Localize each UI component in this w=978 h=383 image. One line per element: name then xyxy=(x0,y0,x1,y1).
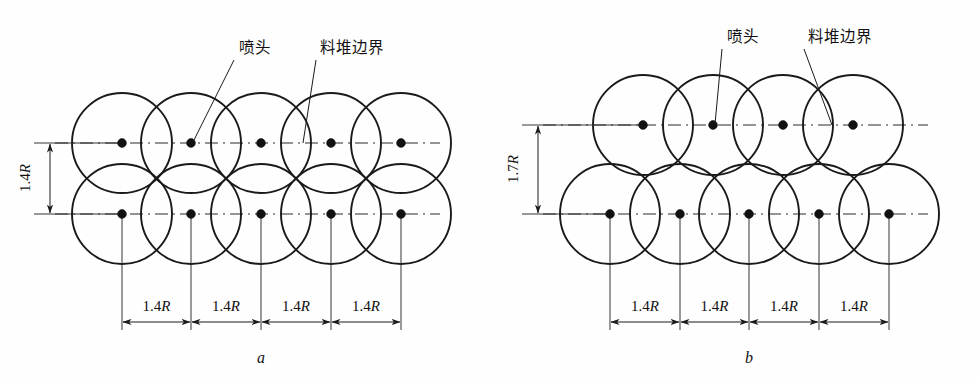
nozzle-dot xyxy=(709,121,718,130)
horizontal-dimension-label: 1.4R xyxy=(282,298,310,314)
horizontal-dimension-label: 1.4R xyxy=(352,298,380,314)
figure-root: 1.4R1.4R1.4R1.4R1.4R喷头料堆边界a1.4R1.4R1.4R1… xyxy=(0,0,978,383)
nozzle-label: 喷头 xyxy=(727,28,759,46)
pile-boundary-label: 料堆边界 xyxy=(320,39,384,57)
panels-layer: 1.4R1.4R1.4R1.4R1.4R喷头料堆边界a1.4R1.4R1.4R1… xyxy=(17,28,939,366)
horizontal-dimension-label: 1.4R xyxy=(212,298,240,314)
nozzle-dot xyxy=(327,210,336,219)
horizontal-dimension-label: 1.4R xyxy=(840,298,868,314)
nozzle-dot xyxy=(815,210,824,219)
horizontal-dimension-label: 1.4R xyxy=(631,298,659,314)
nozzle-dot xyxy=(639,121,648,130)
nozzle-dot xyxy=(676,210,685,219)
pile-boundary-leader-line xyxy=(804,49,832,125)
pile-boundary-label: 料堆边界 xyxy=(808,28,872,46)
nozzle-label: 喷头 xyxy=(239,39,271,57)
panel-caption-a: a xyxy=(257,349,265,366)
nozzle-dot xyxy=(745,210,754,219)
nozzle-dot xyxy=(397,139,406,148)
vertical-dimension-label: 1.7R xyxy=(505,155,521,183)
sprinkler-layout-diagram: 1.4R1.4R1.4R1.4R1.4R喷头料堆边界a1.4R1.4R1.4R1… xyxy=(0,0,978,383)
nozzle-dot xyxy=(606,210,615,219)
nozzle-dot xyxy=(849,121,858,130)
nozzle-dot xyxy=(779,121,788,130)
panel-b: 1.4R1.4R1.4R1.4R1.7R喷头料堆边界b xyxy=(505,28,939,366)
horizontal-dimension-label: 1.4R xyxy=(770,298,798,314)
nozzle-dot xyxy=(327,139,336,148)
nozzle-leader-line xyxy=(715,49,722,124)
panel-caption-b: b xyxy=(745,349,753,366)
vertical-dimension-label: 1.4R xyxy=(17,164,33,192)
horizontal-dimension-label: 1.4R xyxy=(143,298,171,314)
nozzle-dot xyxy=(118,210,127,219)
nozzle-dot xyxy=(187,210,196,219)
nozzle-dot xyxy=(397,210,406,219)
panel-a: 1.4R1.4R1.4R1.4R1.4R喷头料堆边界a xyxy=(17,39,451,366)
nozzle-dot xyxy=(118,139,127,148)
horizontal-dimension-label: 1.4R xyxy=(701,298,729,314)
nozzle-dot xyxy=(257,139,266,148)
nozzle-dot xyxy=(885,210,894,219)
nozzle-dot xyxy=(257,210,266,219)
